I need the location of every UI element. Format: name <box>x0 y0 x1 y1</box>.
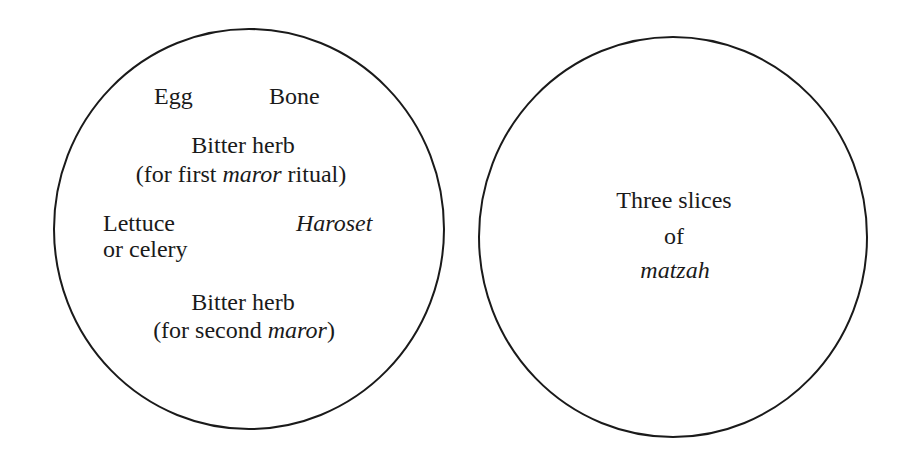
matzah-line-3: matzah <box>640 258 709 282</box>
matzah-line-2: of <box>664 224 684 248</box>
haroset-label: Haroset <box>296 211 372 235</box>
bitter-herb-second-label: Bitter herb <box>191 290 294 314</box>
bitter-herb-first-note-post: ritual) <box>282 161 347 187</box>
celery-label: or celery <box>103 237 188 261</box>
bitter-herb-second-note: (for second maror) <box>153 318 335 342</box>
maror-term: maror <box>268 317 327 343</box>
bitter-herb-second-note-pre: (for second <box>153 317 268 343</box>
seder-plate-diagram: Egg Bone Bitter herb (for first maror ri… <box>0 0 913 461</box>
lettuce-label: Lettuce <box>103 211 175 235</box>
bitter-herb-first-note: (for first maror ritual) <box>136 162 346 186</box>
egg-label: Egg <box>154 84 193 108</box>
bone-label: Bone <box>269 84 320 108</box>
bitter-herb-first-label: Bitter herb <box>191 133 294 157</box>
bitter-herb-second-note-post: ) <box>327 317 335 343</box>
matzah-line-1: Three slices <box>616 188 731 212</box>
bitter-herb-first-note-pre: (for first <box>136 161 223 187</box>
maror-term: maror <box>222 161 281 187</box>
